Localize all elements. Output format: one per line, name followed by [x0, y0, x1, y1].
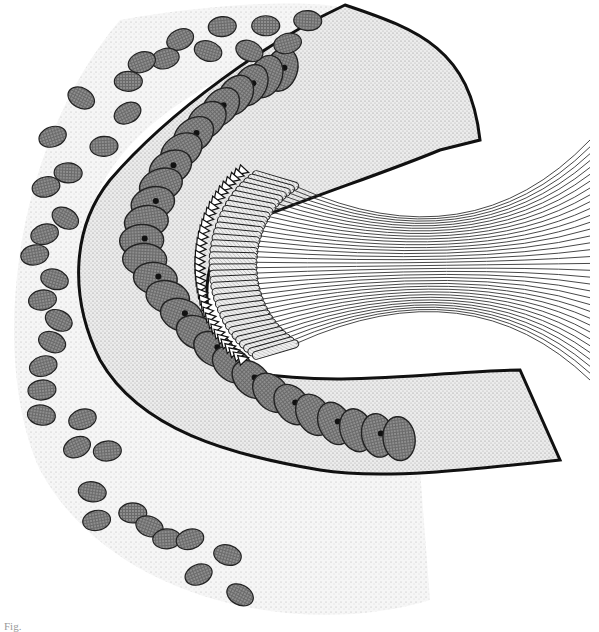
- nucleolus: [142, 236, 148, 242]
- tail: [284, 305, 590, 360]
- tail: [255, 250, 590, 260]
- nucleolus: [182, 310, 188, 316]
- fibroblast-nucleus: [114, 71, 142, 91]
- tail: [255, 268, 590, 273]
- tail: [288, 307, 590, 366]
- tail: [292, 309, 590, 373]
- flagellum: [229, 307, 590, 366]
- nucleolus: [153, 198, 159, 204]
- nucleolus: [155, 273, 161, 279]
- flagella-bundle: [195, 140, 590, 380]
- fibroblast-nucleus: [252, 16, 280, 36]
- nucleolus: [170, 162, 176, 168]
- figure-caption: Fig.: [4, 620, 21, 632]
- tail: [255, 263, 590, 267]
